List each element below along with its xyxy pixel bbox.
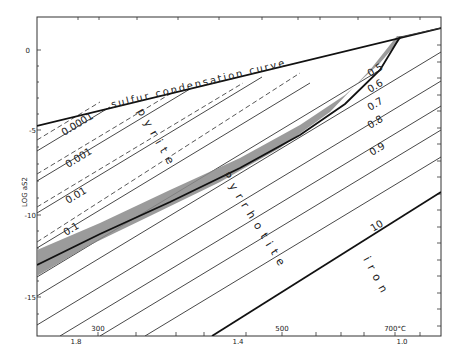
contour-label-0.0001: 0.0001 [59,110,95,137]
y-tick-0: 0 [26,47,30,55]
temp-label-700: 700°C [384,325,406,333]
phase-label-pyrite: pyrite [134,106,179,172]
x-tick-1.0: 1.0 [396,338,407,346]
contour-label-10: 10 [368,218,385,234]
contour-label-0.7: 0.7 [365,95,384,113]
sulfur-condensation-label: sulfur condensation curve [110,57,288,110]
contour-label-0.6: 0.6 [365,77,384,95]
y-axis-label: LOG aS2 [21,177,29,207]
contour-label-0.9: 0.9 [367,140,386,158]
contour-label-0.8: 0.8 [365,113,384,131]
contour-label-0.5: 0.5 [365,61,384,79]
contour-label-0.01: 0.01 [63,185,88,206]
phase-label-iron: iron [360,254,393,300]
x-tick-1.8: 1.8 [70,338,81,346]
y-tick-minus10: -10 [25,212,36,220]
temp-label-500: 500 [275,325,288,333]
temp-label-300: 300 [91,325,104,333]
y-tick-minus15: -15 [25,294,36,302]
right-ticks [437,45,441,326]
x-tick-1.4: 1.4 [232,338,244,346]
phase-diagram: 0 -5 -10 -15 LOG aS2 1.8 1.4 1.0 300 500… [0,0,464,361]
y-tick-minus5: -5 [29,127,36,135]
